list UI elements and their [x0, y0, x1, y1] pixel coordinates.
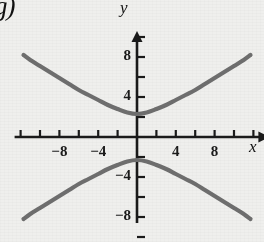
- x-tick-label: 4: [156, 143, 196, 160]
- x-tick-label: −4: [78, 143, 118, 160]
- y-tick-label: −8: [91, 207, 131, 224]
- x-tick-label: 8: [195, 143, 235, 160]
- y-axis-label: y: [120, 0, 128, 18]
- y-tick-label: 4: [91, 87, 131, 104]
- plot-area: [0, 0, 264, 242]
- x-axis-label: x: [249, 137, 257, 157]
- axes-group: [15, 31, 264, 237]
- x-tick-label: −8: [39, 143, 79, 160]
- y-tick-label: 8: [91, 47, 131, 64]
- x-axis-arrowhead: [258, 132, 264, 143]
- hyperbola-figure: g) y x −8−44884−4−8: [0, 0, 264, 242]
- y-tick-label: −4: [91, 167, 131, 184]
